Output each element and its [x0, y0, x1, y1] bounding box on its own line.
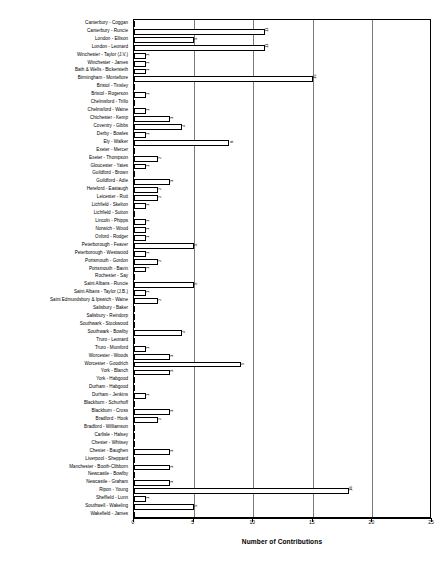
bar-row [134, 99, 430, 107]
bar-value-label: 11 [265, 28, 269, 32]
bar-value-label: 1 [146, 164, 150, 166]
bar-value-label: 1 [146, 394, 150, 396]
bar-row: 5 [134, 281, 430, 289]
bar [134, 385, 135, 391]
category-label: Blackburn - Schurhoff [84, 401, 128, 406]
bar [134, 425, 135, 431]
bar-row: 2 [134, 297, 430, 305]
category-label: Guildford - Adie [96, 179, 128, 184]
bar [134, 354, 170, 360]
x-axis-tick-label: 20 [369, 520, 375, 525]
bar-value-label: 18 [349, 487, 353, 492]
bar-value-label: 2 [158, 259, 162, 261]
category-label: Truro - Leonard [96, 337, 128, 342]
category-label: Liverpool - Sheppard [85, 456, 128, 461]
category-label: Winchester - Taylor (J.V.) [77, 52, 128, 57]
bar-value-label: 3 [170, 449, 174, 451]
bar-value-label: 1 [146, 291, 150, 293]
category-label: Bradford - Hook [96, 417, 128, 422]
bar-row: 1 [134, 226, 430, 234]
category-label: Carlisle - Halsey [95, 433, 128, 438]
bar-series: 1151111115113418213221111512151241393132… [134, 20, 430, 517]
bar-row: 1 [134, 234, 430, 242]
bar-row: 3 [134, 448, 430, 456]
category-label: Salisbury - Baker [93, 306, 128, 311]
bar-row: 1 [134, 345, 430, 353]
bar [134, 124, 182, 130]
bar-value-label: 3 [170, 370, 174, 372]
bar-row [134, 337, 430, 345]
bar [134, 417, 158, 423]
category-label: Portsmouth - Gordon [85, 258, 128, 263]
bar-value-label: 11 [265, 43, 269, 47]
bar-row: 1 [134, 495, 430, 503]
bar [134, 148, 135, 154]
bar [134, 211, 135, 217]
bar-row [134, 456, 430, 464]
bar [134, 116, 170, 122]
bar [134, 84, 135, 90]
bar-value-label: 9 [241, 362, 245, 364]
category-label: Peterborough - Feaver [82, 242, 128, 247]
bar-row [134, 147, 430, 155]
bar [134, 330, 182, 336]
category-label: Bradford - Williamson [84, 425, 128, 430]
bar-row: 1 [134, 250, 430, 258]
bar [134, 156, 158, 162]
bar-row: 1 [134, 60, 430, 68]
bar [134, 441, 135, 447]
bar-value-label: 4 [182, 331, 186, 333]
bar-row: 1 [134, 131, 430, 139]
category-label: Bristol - Tinsley [97, 84, 128, 89]
bar [134, 433, 135, 439]
bar [134, 100, 135, 106]
bar [134, 504, 194, 510]
bar-row: 1 [134, 68, 430, 76]
bar-value-label: 1 [146, 61, 150, 63]
bar-row: 4 [134, 329, 430, 337]
bar-row [134, 83, 430, 91]
category-label: Worcester - Goodrich [84, 361, 128, 366]
category-label: Saint Albans - Runcie [84, 282, 128, 287]
category-label: Chichester - Kemp [90, 116, 128, 121]
category-label: Canterbury - Coggan [85, 21, 128, 26]
bar-value-label: 2 [158, 188, 162, 190]
bar-row: 1 [134, 266, 430, 274]
bar-value-label: 4 [182, 125, 186, 127]
bar-value-label: 1 [146, 251, 150, 253]
bar-row: 2 [134, 155, 430, 163]
bar [134, 187, 158, 193]
bar-value-label: 1 [146, 228, 150, 230]
bar-row: 11 [134, 28, 430, 36]
bar [134, 480, 170, 486]
bar [134, 401, 135, 407]
category-label: Ely - Walker [103, 139, 128, 144]
x-axis-line [133, 518, 431, 519]
bar [134, 306, 135, 312]
bar-row: 5 [134, 503, 430, 511]
category-label: Truro - Mumford [95, 345, 128, 350]
bar-value-label: 3 [170, 180, 174, 182]
category-label: Durham - Habgood [89, 385, 128, 390]
bar-row: 3 [134, 353, 430, 361]
category-label: Southwell - Wakeling [85, 504, 128, 509]
bar-row [134, 305, 430, 313]
category-label: London - Ellison [95, 37, 128, 42]
bar-value-label: 1 [146, 93, 150, 95]
bar-row: 8 [134, 139, 430, 147]
bar-value-label: 1 [146, 267, 150, 269]
x-axis-tick-label: 5 [191, 520, 194, 525]
category-label: Ripon - Young [99, 488, 128, 493]
bar-value-label: 1 [146, 346, 150, 348]
bar [134, 195, 158, 201]
category-label: Peterborough - Westwood [75, 250, 128, 255]
x-axis-tick-label: 15 [309, 520, 315, 525]
category-label: Blackburn - Cross [91, 409, 128, 414]
bar-value-label: 2 [158, 156, 162, 158]
bar-row: 1 [134, 289, 430, 297]
bar-row: 5 [134, 242, 430, 250]
bar-row: 3 [134, 369, 430, 377]
bar-value-label: 3 [170, 117, 174, 119]
bar-row: 3 [134, 178, 430, 186]
bar-row: 1 [134, 202, 430, 210]
